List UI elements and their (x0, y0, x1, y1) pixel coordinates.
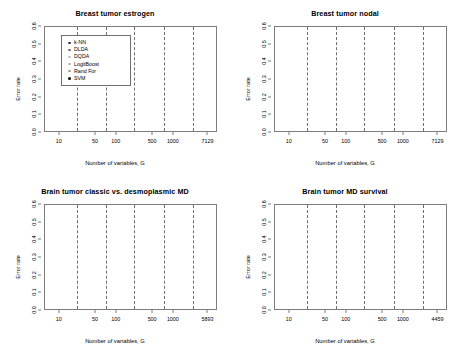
y-tick-mark (268, 79, 271, 80)
y-tick-mark (38, 239, 41, 240)
x-tick-mark (152, 132, 153, 135)
group-separator (134, 27, 135, 131)
x-tick-mark (382, 132, 383, 135)
x-tick-mark (437, 132, 438, 135)
group-separator (193, 27, 194, 131)
y-tick-mark (268, 96, 271, 97)
y-tick-mark (38, 310, 41, 311)
y-tick-label: 0.0 (30, 306, 36, 314)
group-separator (77, 205, 78, 309)
y-tick-label: 0.6 (30, 22, 36, 30)
y-axis-ticks: 0.00.10.20.30.40.50.6 (250, 204, 271, 310)
y-tick-mark (268, 204, 271, 205)
y-tick-label: 0.2 (30, 93, 36, 101)
legend-item-dqda: DQDA (65, 53, 128, 60)
group-separator (423, 205, 424, 309)
x-tick-label: 1000 (397, 138, 409, 144)
x-tick-mark (437, 310, 438, 313)
panel-1: Breast tumor estrogen Error rate 0.00.10… (0, 0, 230, 178)
y-tick-label: 0.6 (260, 200, 266, 208)
y-tick-mark (268, 26, 271, 27)
figure-grid: Breast tumor estrogen Error rate 0.00.10… (0, 0, 460, 356)
y-tick-label: 0.5 (30, 218, 36, 226)
legend-marker-knn-icon (65, 42, 74, 44)
y-tick-label: 0.5 (30, 40, 36, 48)
x-axis-ticks: 105010050010004459 (274, 310, 447, 326)
y-tick-label: 0.4 (30, 58, 36, 66)
y-tick-mark (38, 132, 41, 133)
y-tick-label: 0.1 (30, 289, 36, 297)
y-tick-mark (268, 221, 271, 222)
x-tick-label: 50 (322, 138, 328, 144)
plot-area (44, 204, 217, 310)
x-tick-label: 100 (341, 316, 350, 322)
y-tick-label: 0.4 (30, 236, 36, 244)
marker-m-dlda (68, 49, 70, 51)
x-tick-label: 1000 (167, 138, 179, 144)
y-tick-mark (268, 257, 271, 258)
x-axis-ticks: 105010050010007129 (274, 132, 447, 148)
y-tick-label: 0.5 (260, 40, 266, 48)
marker-m-svm (68, 77, 71, 80)
x-tick-mark (58, 310, 59, 313)
y-tick-mark (268, 43, 271, 44)
panel-title: Breast tumor nodal (230, 9, 460, 18)
x-tick-mark (288, 310, 289, 313)
legend-marker-lb-icon (65, 63, 74, 65)
x-axis-label: Number of variables, G (0, 338, 230, 344)
legend-label: LogitBoost (74, 61, 99, 68)
panel-3: Brain tumor classic vs. desmoplasmic MD … (0, 178, 230, 356)
x-tick-mark (325, 310, 326, 313)
plot-area (274, 204, 447, 310)
group-separator (364, 27, 365, 131)
x-tick-label: 1000 (167, 316, 179, 322)
x-tick-label: 10 (286, 138, 292, 144)
y-tick-mark (38, 26, 41, 27)
x-tick-mark (207, 132, 208, 135)
y-axis-ticks: 0.00.10.20.30.40.50.6 (20, 204, 41, 310)
legend-label: k-NN (74, 39, 86, 46)
y-tick-label: 0.5 (260, 218, 266, 226)
y-tick-mark (38, 292, 41, 293)
y-tick-mark (38, 79, 41, 80)
y-tick-mark (38, 114, 41, 115)
group-separator (336, 27, 337, 131)
x-tick-mark (115, 132, 116, 135)
group-separator (394, 205, 395, 309)
group-separator (423, 27, 424, 131)
legend-label: SVM (74, 75, 85, 82)
group-separator (164, 205, 165, 309)
y-axis-ticks: 0.00.10.20.30.40.50.6 (250, 26, 271, 132)
x-tick-mark (345, 310, 346, 313)
x-tick-mark (115, 310, 116, 313)
x-tick-label: 1000 (397, 316, 409, 322)
x-axis-ticks: 105010050010007129 (44, 132, 217, 148)
y-tick-mark (38, 204, 41, 205)
y-tick-label: 0.4 (260, 236, 266, 244)
group-separator (307, 27, 308, 131)
plot-area: k-NNDLDADQDALogitBoostRand ForSVM (44, 26, 217, 132)
panel-title: Breast tumor estrogen (0, 9, 230, 18)
x-tick-label: 500 (148, 316, 157, 322)
x-tick-mark (402, 132, 403, 135)
x-tick-mark (58, 132, 59, 135)
x-tick-label: 7129 (431, 138, 443, 144)
group-separator (394, 27, 395, 131)
y-tick-label: 0.3 (260, 253, 266, 261)
panel-title: Brain tumor classic vs. desmoplasmic MD (0, 187, 230, 196)
y-tick-mark (268, 274, 271, 275)
legend-marker-svm-icon (65, 77, 74, 80)
y-tick-mark (38, 257, 41, 258)
group-separator (106, 205, 107, 309)
y-tick-mark (268, 132, 271, 133)
y-tick-mark (38, 274, 41, 275)
x-tick-label: 4459 (431, 316, 443, 322)
panel-title: Brain tumor MD survival (230, 187, 460, 196)
x-tick-mark (95, 310, 96, 313)
marker-m-knn (68, 42, 70, 44)
y-tick-label: 0.6 (260, 22, 266, 30)
legend-marker-rf-icon (65, 70, 74, 72)
x-axis-ticks: 105010050010005893 (44, 310, 217, 326)
x-tick-mark (172, 310, 173, 313)
x-tick-mark (207, 310, 208, 313)
